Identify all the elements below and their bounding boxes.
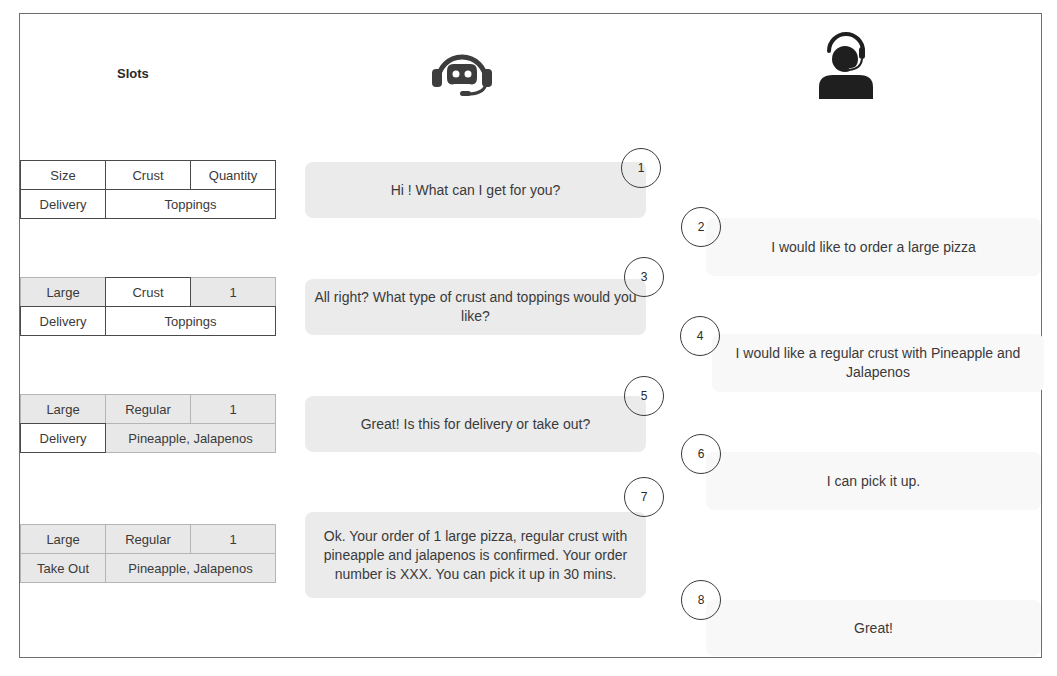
slots-title: Slots [117,66,149,81]
step-marker-6: 6 [681,434,721,474]
bot-message-3: All right? What type of crust and toppin… [305,279,646,335]
user-message-4: I would like a regular crust with Pineap… [712,334,1044,392]
user-message-8: Great! [706,600,1041,656]
slot-size: Large [20,524,106,554]
slot-quantity: 1 [190,277,276,307]
step-marker-4: 4 [680,316,720,356]
user-message-2: I would like to order a large pizza [706,218,1041,276]
slot-toppings: Toppings [105,189,276,219]
step-marker-8: 8 [681,580,721,620]
slot-size: Size [20,160,106,190]
step-marker-5: 5 [624,376,664,416]
step-marker-1: 1 [621,148,661,188]
slot-crust: Regular [105,524,191,554]
slot-quantity: 1 [190,524,276,554]
slot-quantity: Quantity [190,160,276,190]
slot-table-step-3: Large Regular 1 Pineapple, Jalapenos Del… [20,394,276,453]
slot-toppings: Pineapple, Jalapenos [105,423,276,453]
slot-toppings: Toppings [105,306,276,336]
slot-size: Large [20,394,106,424]
bot-message-1: Hi ! What can I get for you? [305,162,646,218]
slot-delivery: Delivery [20,306,106,336]
slot-table-step-1: Size Crust Quantity Delivery Toppings [20,160,276,219]
bot-message-5: Great! Is this for delivery or take out? [305,396,646,452]
slot-delivery: Take Out [20,553,106,583]
slot-size: Large [20,277,106,307]
chatbot-headset-icon [430,45,494,100]
user-message-6: I can pick it up. [706,452,1041,510]
bot-message-7: Ok. Your order of 1 large pizza, regular… [305,512,646,598]
step-marker-2: 2 [681,207,721,247]
slot-crust: Crust [105,160,191,190]
slot-table-step-4: Large Regular 1 Take Out Pineapple, Jala… [20,524,276,583]
customer-headset-icon [815,29,877,101]
slot-delivery: Delivery [20,423,106,453]
slot-crust: Crust [105,277,191,307]
step-marker-7: 7 [624,477,664,517]
slot-delivery: Delivery [20,189,106,219]
slot-table-step-2: Large 1 Crust Delivery Toppings [20,277,276,336]
slot-quantity: 1 [190,394,276,424]
slot-toppings: Pineapple, Jalapenos [105,553,276,583]
slot-crust: Regular [105,394,191,424]
step-marker-3: 3 [624,257,664,297]
